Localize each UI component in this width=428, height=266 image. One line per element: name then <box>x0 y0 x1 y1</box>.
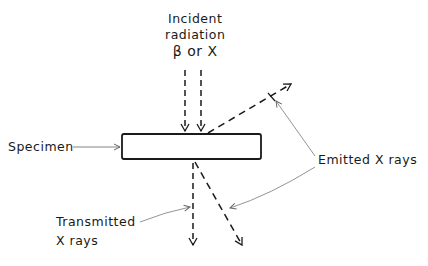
specimen-slab <box>122 134 261 159</box>
emitted-leader-up <box>276 101 315 156</box>
emitted-label: Emitted X rays <box>318 152 417 168</box>
transmitted-label-line1: Transmitted <box>56 214 136 230</box>
emitted-ray-down <box>195 162 242 245</box>
specimen-label: Specimen <box>8 139 74 155</box>
emitted-leader-down <box>230 167 315 208</box>
transmitted-leader <box>140 207 190 222</box>
incident-label: Incident radiation β or X <box>165 11 225 59</box>
incident-label-line3: β or X <box>165 43 225 59</box>
transmitted-label-line2: X rays <box>56 233 136 249</box>
incident-label-line1: Incident <box>165 11 225 27</box>
incident-label-line2: radiation <box>165 27 225 43</box>
emitted-ray-up <box>208 84 291 133</box>
transmitted-label: Transmitted X rays <box>56 214 136 249</box>
